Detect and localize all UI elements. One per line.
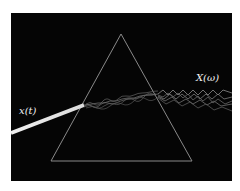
spectrum-waves-output xyxy=(158,90,232,111)
output-spectrum-label: X(ω) xyxy=(195,72,219,83)
input-signal-label: x(t) xyxy=(19,105,37,116)
dispersion-waves-inside xyxy=(84,91,158,109)
prism-diagram: x(t) X(ω) xyxy=(0,0,240,191)
